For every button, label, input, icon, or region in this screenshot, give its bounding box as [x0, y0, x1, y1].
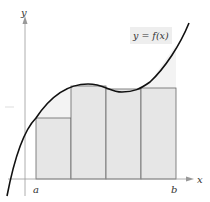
x-axis-label: x — [197, 174, 203, 185]
interval-end-label: b — [171, 184, 177, 195]
y-axis-label: y — [20, 7, 27, 18]
rectangle-4 — [141, 88, 176, 179]
function-label: y = f(x) — [132, 30, 169, 41]
riemann-sum-diagram: y x a b y = f(x) — [0, 0, 210, 202]
rectangle-2 — [71, 86, 106, 179]
rectangle-1 — [36, 118, 71, 179]
rectangle-3 — [106, 89, 141, 179]
interval-start-label: a — [33, 184, 39, 195]
x-axis-arrow-icon — [186, 177, 194, 182]
